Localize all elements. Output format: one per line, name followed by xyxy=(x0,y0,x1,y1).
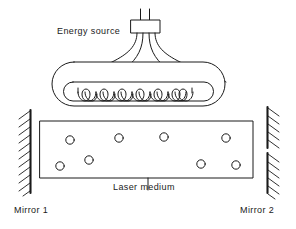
atom-circle xyxy=(56,162,64,170)
atom-circle xyxy=(160,133,168,141)
mirror-1-graphic xyxy=(19,110,31,196)
laser-diagram-figure: Energy source Laser medium Mirror 1 Mirr… xyxy=(0,0,296,229)
energy-source-box xyxy=(131,20,160,33)
energy-source-label: Energy source xyxy=(57,26,120,37)
laser-schematic-drawing xyxy=(0,0,296,229)
mirror-1-label: Mirror 1 xyxy=(14,205,48,216)
atom-circle xyxy=(115,134,123,142)
atom-circle xyxy=(66,136,74,144)
mirror-2-hatching xyxy=(268,108,279,199)
atom-circle xyxy=(85,156,93,164)
atom-circle xyxy=(232,161,240,169)
mirror-2-label: Mirror 2 xyxy=(240,205,274,216)
atom-circle xyxy=(222,134,230,142)
mirror-2-graphic xyxy=(268,107,280,199)
laser-medium-rect xyxy=(40,121,253,178)
mirror-1-hatching xyxy=(19,111,30,196)
laser-medium-label: Laser medium xyxy=(113,182,175,193)
drawing-strokes xyxy=(19,9,279,199)
atom-circle xyxy=(197,160,205,168)
